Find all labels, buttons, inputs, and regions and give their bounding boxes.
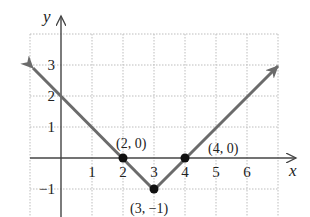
y-tick: 1: [48, 119, 56, 135]
x-tick: 5: [212, 164, 220, 180]
x-tick: 2: [119, 164, 127, 180]
x-tick: 3: [150, 164, 158, 180]
point-label: (4, 0): [208, 141, 239, 157]
point-4-0: [181, 154, 190, 163]
x-tick: 1: [88, 164, 96, 180]
point-label: (2, 0): [116, 136, 147, 152]
point-label: (3, −1): [130, 201, 169, 217]
x-tick: 4: [181, 164, 189, 180]
x-tick: 6: [243, 164, 251, 180]
y-tick: 3: [48, 57, 56, 73]
y-axis-label: y: [41, 7, 51, 26]
point-3-neg1: [150, 185, 159, 194]
y-tick: 2: [48, 88, 56, 104]
point-2-0: [119, 154, 128, 163]
absolute-value-graph: y x 1 2 3 4 5 6 3 2 1 −1 (2, 0) (3, −1) …: [0, 0, 310, 217]
x-axis-label: x: [288, 161, 297, 180]
y-tick: −1: [39, 181, 55, 197]
